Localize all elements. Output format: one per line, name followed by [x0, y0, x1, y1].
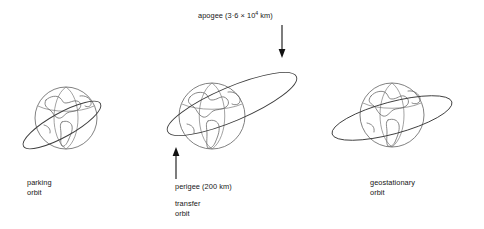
earth-globe-geostationary: [360, 83, 424, 147]
orbit-diagram-figure: apogee (3·6 × 104 km) parking orbit peri…: [0, 0, 484, 229]
earth-globe-parking: [35, 87, 97, 149]
apogee-label-prefix: apogee (3·6 × 10: [198, 11, 255, 20]
apogee-arrowhead-icon: [279, 49, 286, 58]
earth-globe-transfer: [179, 83, 245, 149]
apogee-annotation-arrow: [279, 25, 286, 58]
parking-orbit-label: parking orbit: [27, 178, 52, 197]
perigee-label: perigee (200 km): [175, 182, 232, 192]
transfer-orbit-label: transfer orbit: [175, 199, 200, 218]
panel-geostationary-orbit: [328, 83, 456, 150]
apogee-label: apogee (3·6 × 104 km): [198, 11, 273, 21]
perigee-arrowhead-icon: [173, 147, 180, 156]
geostationary-orbit-label: geostationary orbit: [370, 178, 415, 197]
globe-outline-icon: [360, 83, 424, 147]
panel-parking-orbit: [18, 87, 107, 157]
panel-transfer-orbit: [161, 25, 303, 179]
apogee-label-suffix: km): [258, 11, 273, 20]
perigee-annotation-arrow: [173, 147, 180, 179]
globe-outline-icon: [35, 87, 97, 149]
